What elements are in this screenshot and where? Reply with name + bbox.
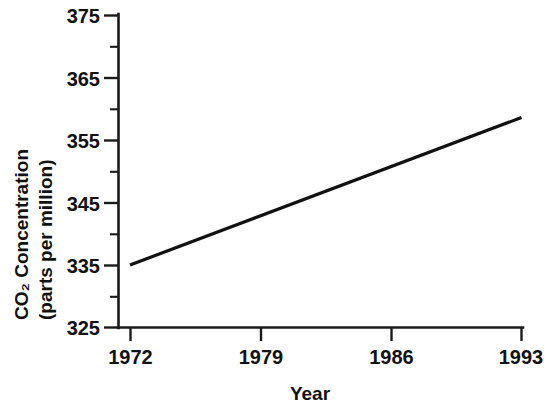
y-axis-title-line1: CO₂ Concentration (11, 149, 32, 320)
x-tick-label-1972: 1972 (108, 346, 153, 368)
x-axis-title: Year (290, 383, 331, 404)
y-tick-label-355: 355 (67, 130, 100, 152)
y-tick-label-345: 345 (67, 193, 100, 215)
x-tick-label-1986: 1986 (369, 346, 414, 368)
x-tick-label-1993: 1993 (499, 346, 544, 368)
y-tick-label-335: 335 (67, 255, 100, 277)
chart-svg: 375 365 355 345 335 325 1972 1979 1986 1… (0, 0, 550, 417)
y-tick-label-365: 365 (67, 68, 100, 90)
co2-concentration-chart: 375 365 355 345 335 325 1972 1979 1986 1… (0, 0, 550, 417)
y-axis-title-line2: (parts per million) (35, 160, 56, 320)
x-tick-label-1979: 1979 (239, 346, 284, 368)
y-tick-label-375: 375 (67, 5, 100, 27)
y-tick-label-325: 325 (67, 317, 100, 339)
